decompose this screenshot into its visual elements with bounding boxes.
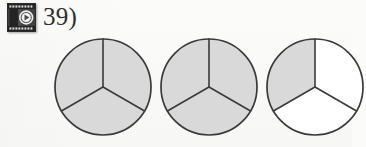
fraction-circle-3[interactable] [264,36,366,138]
video-play-icon[interactable] [7,3,36,32]
question-header: 39) [7,3,77,32]
question-number-label: 39) [43,4,77,32]
fraction-circle-2[interactable] [158,36,260,138]
fraction-circle-1[interactable] [52,36,154,138]
fraction-circles-diagram [52,36,366,138]
